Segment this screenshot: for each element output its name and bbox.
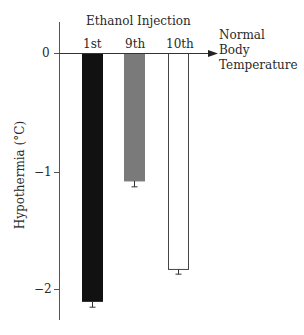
arrowhead-icon (208, 50, 218, 57)
chart-title: Ethanol Injection (86, 14, 191, 28)
y-tick-label-minus2: −2 (34, 282, 52, 296)
y-axis-label: Hypothermia (°C) (13, 121, 27, 229)
error-bar-1st (90, 301, 96, 307)
category-label-9th: 9th (125, 37, 145, 51)
bar-1st (83, 54, 103, 302)
bar-10th (169, 54, 189, 270)
error-bar-9th (132, 181, 138, 187)
annotation-line-3: Temperature (219, 58, 298, 73)
y-tick-label-minus1: −1 (34, 165, 52, 179)
annotation-line-2: Body (219, 43, 298, 58)
category-label-1st: 1st (83, 37, 102, 51)
bar-9th (125, 54, 145, 181)
normal-body-temperature-annotation: Normal Body Temperature (219, 28, 298, 73)
annotation-line-1: Normal (219, 28, 298, 43)
category-label-10th: 10th (166, 37, 194, 51)
error-bar-10th (176, 269, 182, 274)
hypothermia-bar-chart: Ethanol Injection 1st 9th 10th 0 −1 −2 H… (0, 0, 304, 335)
y-tick-label-0: 0 (42, 46, 50, 60)
